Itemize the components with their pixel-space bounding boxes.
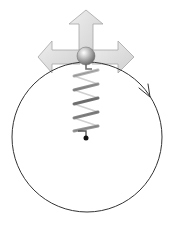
direction-arrowhead-icon (139, 84, 150, 97)
diagram-canvas (0, 0, 180, 228)
spring-circular-motion-diagram (0, 0, 180, 228)
right-arrow-icon (92, 41, 134, 73)
ball (77, 47, 95, 65)
anchor-point (84, 136, 89, 141)
spring (74, 64, 98, 137)
left-arrow-icon (38, 41, 80, 73)
